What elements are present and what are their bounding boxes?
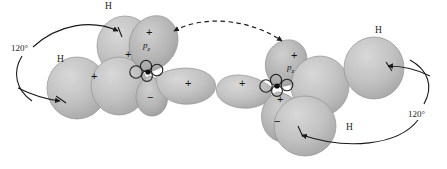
sign-c2-pz-minus: −	[274, 116, 280, 127]
sign-pz-left-plus: +	[146, 27, 152, 38]
sign-c1-pz-minus: −	[147, 92, 153, 103]
orbital-diagram: H H H H 120° 120° pz pz + + + − + + + + …	[0, 0, 447, 169]
label-pz-left: pz	[143, 41, 150, 52]
label-h-left: H	[57, 55, 64, 65]
label-h-top-right: H	[375, 26, 382, 36]
label-pz-left-sub: z	[148, 45, 151, 52]
sign-sigma-a-plus: +	[185, 78, 191, 89]
label-angle-right: 120°	[408, 110, 425, 119]
sign-pz-right-plus: +	[291, 50, 297, 61]
sigma-lobe-c2-h-lower	[274, 96, 336, 156]
label-h-top-left: H	[105, 2, 112, 12]
sign-sigma-b-plus: +	[239, 78, 245, 89]
sign-c1-left-plus: +	[91, 71, 97, 82]
pi-overlap-arrow	[174, 21, 282, 41]
sigma-lobe-c2-h-right	[344, 37, 404, 99]
label-pz-right-sub: z	[292, 67, 295, 74]
angle-arc-left-lower	[17, 56, 32, 101]
label-pz-right: pz	[287, 63, 294, 74]
label-h-bottom-right: H	[346, 123, 353, 133]
label-angle-left: 120°	[11, 44, 28, 53]
angle-arc-right-upper	[410, 60, 429, 104]
sign-c1-upper-plus: +	[125, 49, 131, 60]
carbon-1-group	[47, 16, 216, 119]
sign-c2-lower-plus: +	[277, 94, 283, 105]
